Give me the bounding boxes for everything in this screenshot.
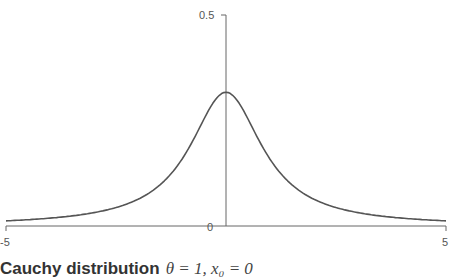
chart-title: Cauchy distributionθ = 1, x₀ = 0	[0, 259, 253, 277]
chart-canvas: -5 5 0 0.5	[0, 0, 453, 277]
x-tick-label-min: -5	[0, 236, 10, 248]
y-tick-label-zero: 0	[207, 221, 213, 233]
chart-title-params: θ = 1, x₀ = 0	[166, 259, 253, 277]
y-tick-label-max: 0.5	[199, 9, 214, 21]
chart-title-text: Cauchy distribution	[0, 259, 160, 277]
x-tick-label-max: 5	[442, 236, 448, 248]
